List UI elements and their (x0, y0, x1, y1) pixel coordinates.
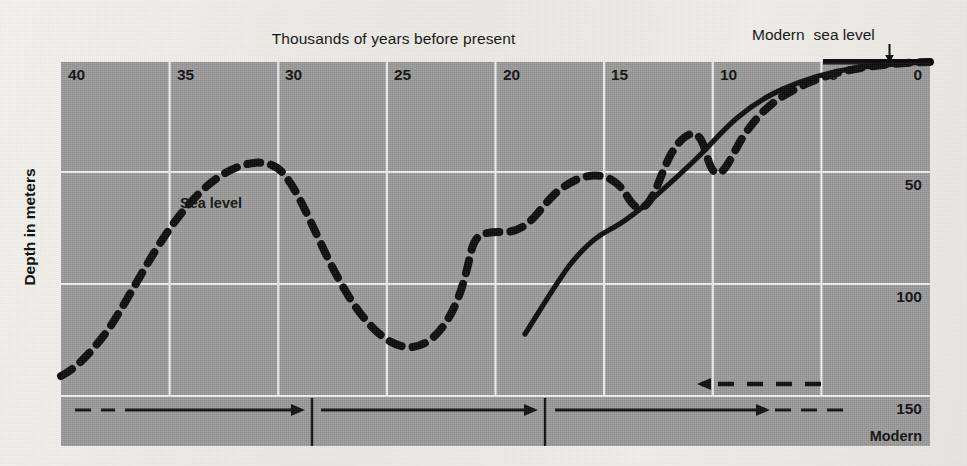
y-axis-label: Depth in meters (21, 137, 39, 317)
modern-label: Modern (752, 26, 805, 43)
band-arrow-1 (75, 404, 305, 416)
sea-level-label: sea level (814, 26, 875, 43)
figure-root: Thousands of years before present Depth … (0, 0, 967, 466)
modern-sea-level-annotation: Modernsea level (752, 26, 875, 44)
phase-band-svg (61, 62, 930, 446)
plot-panel: 40 35 30 25 20 15 10 5 0 50 100 150 Mode… (61, 62, 930, 446)
band-arrow-3 (555, 404, 843, 416)
chart-title-text: Thousands of years before present (272, 30, 516, 48)
band-arrow-2 (321, 404, 538, 416)
